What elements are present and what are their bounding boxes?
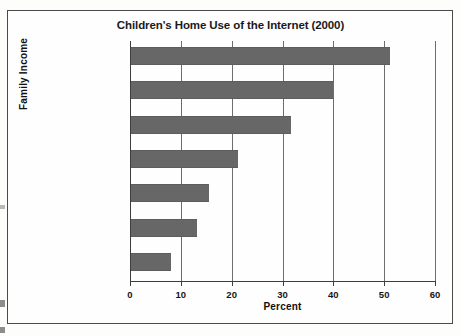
x-axis-tick-label: 60 (430, 289, 441, 300)
x-axis-tick-label: 10 (176, 289, 187, 300)
plot-area: 0102030405060$75,000 and over$50,000 - $… (130, 41, 435, 281)
scan-artifact-mark (0, 327, 5, 333)
scan-artifact-mark (0, 205, 5, 209)
x-axis-tick (283, 281, 284, 286)
bar (131, 253, 171, 271)
bar (131, 81, 333, 99)
x-axis-tick-label: 0 (127, 289, 132, 300)
y-axis-title: Family Income (18, 38, 29, 110)
x-axis-tick-label: 20 (226, 289, 237, 300)
bar (131, 47, 390, 65)
gridline (283, 41, 284, 281)
x-axis-tick-label: 40 (328, 289, 339, 300)
gridline (333, 41, 334, 281)
bar (131, 150, 238, 168)
gridline (384, 41, 385, 281)
x-axis-tick (384, 281, 385, 286)
chart-title: Children's Home Use of the Internet (200… (0, 19, 461, 31)
x-axis-tick (435, 281, 436, 286)
gridline (435, 41, 436, 281)
bar (131, 184, 209, 202)
scan-artifact-mark (0, 300, 5, 307)
x-axis-tick-label: 50 (379, 289, 390, 300)
x-axis-tick-label: 30 (277, 289, 288, 300)
x-axis-tick (333, 281, 334, 286)
x-axis-tick (130, 281, 131, 286)
bar (131, 116, 291, 134)
x-axis-tick (232, 281, 233, 286)
x-axis-tick (181, 281, 182, 286)
bar (131, 219, 197, 237)
chart-page: Children's Home Use of the Internet (200… (0, 0, 461, 336)
x-axis-title: Percent (130, 301, 435, 312)
